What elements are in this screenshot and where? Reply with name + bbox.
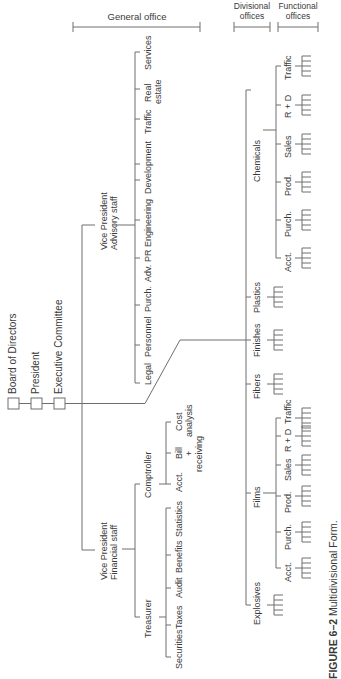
treasurer-item-statistics: Statistics xyxy=(174,500,184,537)
top-management: Board of Directors President Executive C… xyxy=(7,299,246,409)
executive-label: Executive Committee xyxy=(53,299,64,394)
division-explosives: Explosives xyxy=(252,581,262,625)
financial-vp-line1: Vice President xyxy=(99,522,109,580)
division-finishes: Finishes xyxy=(252,323,262,357)
chemicals-acct: Acct. xyxy=(283,252,293,272)
films-traffic: Traffic xyxy=(283,399,293,424)
comptroller-item-plus: + xyxy=(184,451,194,456)
division-films: Films xyxy=(252,486,262,508)
financial-vp: Vice President Financial staff xyxy=(82,484,140,617)
division-chemicals: Chemicals xyxy=(252,139,262,182)
advisory-item-purch: Purch. xyxy=(143,286,153,312)
comptroller: Comptroller Acct. Bill + receiving Cost … xyxy=(143,404,204,498)
advisory-item-engineering: Engineering xyxy=(143,199,153,247)
treasurer-item-securities: Securities xyxy=(174,629,184,669)
divisional-label-2: offices xyxy=(240,11,264,21)
board-box xyxy=(8,398,19,409)
header-divisional-offices: Divisional offices xyxy=(234,1,270,32)
advisory-item-real-estate-2: estate xyxy=(153,79,163,104)
comptroller-item-cost: Cost xyxy=(174,412,184,431)
figure-title: Multidivisional Form. xyxy=(327,520,339,616)
advisory-item-pr: PR xyxy=(143,249,153,262)
fibers-offices-icon xyxy=(267,374,283,394)
treasurer-item-audit: Audit xyxy=(174,577,184,598)
functional-label-2: offices xyxy=(286,11,310,21)
functional-label-1: Functional xyxy=(278,1,317,11)
comptroller-item-receiving: receiving xyxy=(194,436,204,472)
treasurer-label: Treasurer xyxy=(143,599,153,638)
treasurer-item-taxes: Taxes xyxy=(174,605,184,629)
films-sales: Sales xyxy=(283,458,293,481)
films-functions: Acct. Purch. Prod. Sales R + D Traffic xyxy=(263,399,311,582)
header-general-office: General office xyxy=(73,11,200,32)
chemicals-purch: Purch. xyxy=(283,211,293,237)
plastics-offices-icon xyxy=(267,287,283,307)
comptroller-label: Comptroller xyxy=(143,451,153,498)
general-office-label: General office xyxy=(108,11,167,22)
header-functional-offices: Functional offices xyxy=(278,1,318,32)
advisory-item-traffic: Traffic xyxy=(143,109,153,134)
comptroller-item-analysis: analysis xyxy=(184,404,194,437)
division-fibers: Fibers xyxy=(252,373,262,399)
comptroller-item-bill: Bill xyxy=(174,447,184,459)
advisory-vp-line2: Advisory staff xyxy=(109,196,119,250)
advisory-item-development: Development xyxy=(143,140,153,194)
division-plastics: Plastics xyxy=(252,281,262,313)
advisory-item-personnel: Personnel xyxy=(143,316,153,357)
president-box xyxy=(31,398,42,409)
chemicals-sales: Sales xyxy=(283,135,293,158)
executive-box xyxy=(54,398,65,409)
films-purch: Purch. xyxy=(283,524,293,550)
chemicals-rd: R + D xyxy=(283,94,293,118)
advisory-vp-line1: Vice President xyxy=(99,192,109,250)
finishes-offices-icon xyxy=(267,330,283,350)
chemicals-functions: Acct. Purch. Prod. Sales R + D Traffic xyxy=(263,55,311,272)
chemicals-traffic: Traffic xyxy=(283,55,293,80)
advisory-item-real-estate-1: Real xyxy=(143,83,153,102)
president-label: President xyxy=(30,352,41,394)
films-rd: R + D xyxy=(283,428,293,452)
treasurer: Treasurer Securities Taxes Audit Benefit… xyxy=(143,500,184,669)
advisory-items: Legal Personnel Purch. Adv. PR Engineeri… xyxy=(143,35,163,385)
financial-vp-line2: Financial staff xyxy=(109,524,119,580)
films-acct: Acct. xyxy=(283,562,293,582)
explosives-offices-icon xyxy=(267,595,283,615)
figure-number: FIGURE 6–2 xyxy=(327,619,339,679)
board-label: Board of Directors xyxy=(7,313,18,394)
advisory-item-legal: Legal xyxy=(143,363,153,385)
advisory-item-adv: Adv. xyxy=(143,265,153,282)
org-chart-diagram: General office Divisional offices Functi… xyxy=(0,0,341,679)
figure-caption: FIGURE 6–2 Multidivisional Form. xyxy=(327,520,339,679)
advisory-vp: Vice President Advisory staff xyxy=(82,52,140,383)
comptroller-item-acct: Acct. xyxy=(174,472,184,492)
divisional-label-1: Divisional xyxy=(234,1,270,11)
advisory-item-services: Services xyxy=(143,35,153,70)
chemicals-prod: Prod. xyxy=(283,174,293,196)
films-prod: Prod. xyxy=(283,491,293,513)
divisions: Explosives Films Fibers Finishes Plastic… xyxy=(246,90,262,625)
treasurer-item-benefits: Benefits xyxy=(174,540,184,573)
